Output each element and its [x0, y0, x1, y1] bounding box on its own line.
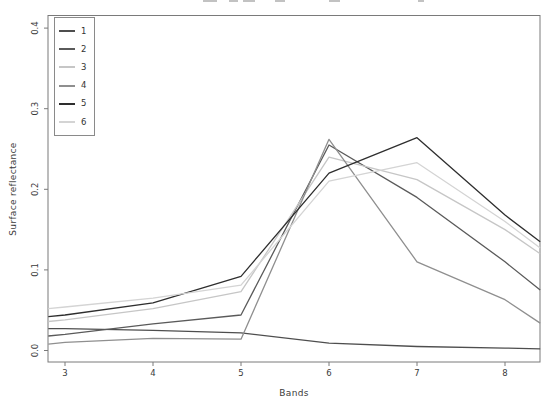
legend-swatch [59, 48, 75, 50]
legend-swatch [59, 66, 75, 68]
legend-swatch [59, 103, 75, 105]
x-tick-label: 5 [238, 368, 243, 378]
legend-swatch [59, 121, 75, 123]
legend-entry: 6 [59, 115, 94, 129]
x-axis-label: Bands [48, 388, 540, 398]
y-tick-label: 0.4 [30, 21, 40, 35]
series-line-6 [48, 163, 540, 309]
y-tick-label: 0.2 [30, 183, 40, 197]
legend-swatch [59, 85, 75, 87]
legend-entry: 5 [59, 97, 94, 111]
legend-entry: 3 [59, 60, 94, 74]
x-tick-label: 7 [414, 368, 419, 378]
legend-label: 5 [81, 99, 86, 108]
legend-label: 2 [81, 45, 86, 54]
x-tick-label: 4 [150, 368, 155, 378]
y-tick-label: 0.3 [30, 102, 40, 116]
x-tick-label: 8 [502, 368, 507, 378]
legend-entry: 1 [59, 24, 94, 38]
legend-entry: 2 [59, 42, 94, 56]
series-line-4 [48, 139, 540, 344]
x-tick-label: 6 [326, 368, 331, 378]
legend-label: 4 [81, 81, 86, 90]
legend-swatch [59, 30, 75, 32]
x-tick-label: 3 [62, 368, 67, 378]
series-line-1 [48, 329, 540, 349]
legend-label: 1 [81, 27, 86, 36]
series-line-5 [48, 138, 540, 317]
legend: 1 2 3 4 5 6 [54, 17, 95, 136]
legend-entry: 4 [59, 79, 94, 93]
plot-frame [48, 16, 540, 363]
y-axis-label: Surface reflectance [8, 142, 18, 235]
legend-label: 6 [81, 118, 86, 127]
figure: 3456780.00.10.20.30.4 1 2 3 4 5 6 Bands … [0, 0, 559, 411]
legend-label: 3 [81, 63, 86, 72]
y-tick-label: 0.1 [30, 263, 40, 277]
y-tick-label: 0.0 [30, 344, 40, 358]
